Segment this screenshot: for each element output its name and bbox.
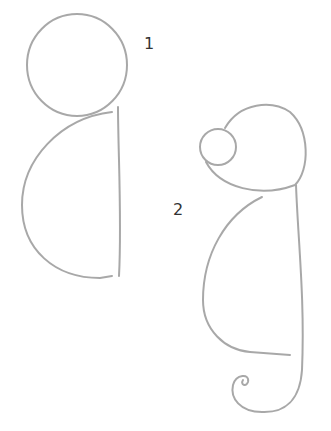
drawing-canvas [0,0,331,431]
step-2-figure [200,105,306,412]
step-1-body-curve [22,112,112,278]
step-1-number: 1 [144,34,154,53]
step-1-figure [22,14,127,278]
step-2-number: 2 [173,200,183,219]
step-2-tail-curve [232,185,302,412]
step-2-head-curve [206,105,306,191]
step-1-back-line [118,107,120,276]
step-1-head-circle [27,14,127,116]
step-2-eye-circle [200,129,236,165]
step-2-body-curve [203,197,290,355]
